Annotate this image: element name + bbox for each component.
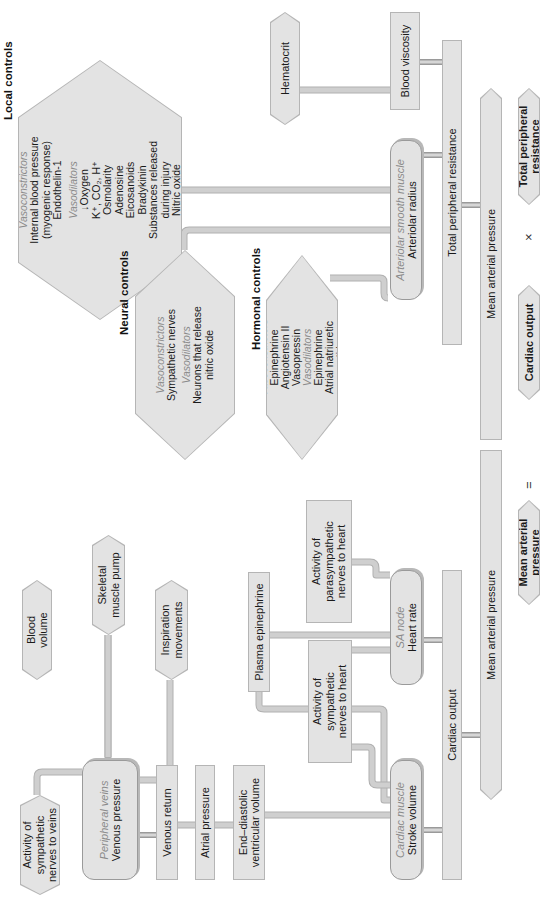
node-text: Mean arterial pressure	[485, 209, 498, 319]
list-item: Osmolarity	[102, 165, 114, 215]
node-text: Atrial pressure	[199, 787, 212, 858]
end-diastolic-volume-node: End–diastolic ventricular volume	[233, 765, 265, 880]
inspiration-movements-node: Inspiration movements	[155, 580, 188, 680]
node-text: volume	[37, 612, 50, 647]
sympathetic-heart-node: Activity of sympathetic nerves to heart	[308, 640, 352, 763]
venous-return-node: Venous return	[156, 765, 178, 880]
diagram-canvas: Activity of sympathetic nerves to veins …	[0, 0, 553, 905]
node-text: ventricular volume	[249, 778, 262, 867]
arteriolar-smooth-muscle-node: Arteriolar smooth muscle Arteriolar radi…	[390, 140, 422, 300]
node-text: nerves to heart	[335, 525, 348, 598]
blood-viscosity-node: Blood viscosity	[390, 12, 420, 110]
equation-term: Cardiac output	[523, 304, 536, 382]
node-text: Venous return	[161, 788, 174, 857]
node-label: SA node	[394, 607, 407, 649]
parasympathetic-heart-node: Activity of parasympathetic nerves to he…	[306, 500, 352, 623]
equals-sign: =	[521, 481, 536, 489]
blood-volume-node: Blood volume	[22, 580, 52, 680]
mean-arterial-pressure-bar-left: Mean arterial pressure	[480, 450, 502, 800]
node-text: Activity of	[310, 538, 323, 585]
equation-mean-arterial-pressure: Mean arterial pressure	[518, 500, 540, 605]
node-text: parasympathetic	[323, 521, 336, 602]
plasma-epinephrine-node: Plasma epinephrine	[248, 572, 270, 692]
list-item: Eicosanoids	[125, 162, 137, 219]
mean-arterial-pressure-bar-right: Mean arterial pressure	[480, 88, 502, 440]
sympathetic-veins-node: Activity of sympathetic nerves to veins	[20, 795, 60, 895]
node-label: Peripheral veins	[98, 781, 111, 860]
node-text: Activity of	[21, 821, 34, 868]
node-text: Skeletal	[96, 565, 109, 604]
node-text: Plasma epinephrine	[253, 583, 266, 680]
node-value: Stroke volume	[406, 785, 419, 855]
equation-term: Total peripheral resistance	[517, 89, 542, 204]
node-text: sympathetic	[324, 672, 337, 731]
node-text: Hematocrit	[279, 42, 292, 95]
atrial-pressure-node: Atrial pressure	[195, 765, 215, 880]
equation-cardiac-output: Cardiac output	[518, 285, 540, 400]
node-text: Inspiration	[159, 605, 172, 656]
node-text: Total peripheral resistance	[446, 128, 459, 256]
node-text: Mean arterial pressure	[485, 570, 498, 680]
equation-total-peripheral-resistance: Total peripheral resistance	[518, 88, 540, 205]
node-text: Activity of	[311, 678, 324, 725]
total-peripheral-resistance-bar: Total peripheral resistance	[442, 40, 462, 345]
node-value: Venous pressure	[110, 779, 123, 862]
list-item: Sympathetic nerves	[166, 309, 178, 401]
node-text: movements	[172, 602, 185, 659]
cardiac-output-bar: Cardiac output	[442, 570, 462, 880]
node-text: Blood viscosity	[399, 25, 412, 98]
neural-controls-title: Neural controls	[118, 251, 130, 335]
list-item: Endothelin-1	[52, 161, 64, 220]
sa-node-node: SA node Heart rate	[390, 570, 422, 685]
local-controls-title: Local controls	[2, 41, 14, 120]
cardiac-muscle-node: Cardiac muscle Stroke volume	[390, 760, 422, 880]
list-item: Substances released	[148, 141, 160, 239]
hormonal-controls-title: Hormonal controls	[250, 248, 262, 350]
node-value: Arteriolar radius	[406, 181, 419, 259]
node-text: Cardiac output	[446, 689, 459, 761]
node-label: Cardiac muscle	[394, 782, 407, 858]
list-item: ↓Oxygen	[79, 169, 91, 210]
node-text: sympathetic	[34, 816, 47, 875]
peripheral-veins-node: Peripheral veins Venous pressure	[82, 760, 138, 880]
hematocrit-node: Hematocrit	[270, 12, 300, 125]
equation-lhs: Mean arterial pressure	[517, 501, 542, 604]
node-text: nerves to heart	[336, 665, 349, 738]
list-item: Nitric oxide	[171, 164, 183, 216]
node-label: Arteriolar smooth muscle	[394, 159, 407, 281]
multiply-sign: ×	[521, 233, 536, 241]
node-text: muscle pump	[109, 552, 122, 617]
skeletal-muscle-pump-node: Skeletal muscle pump	[92, 535, 125, 635]
node-value: Heart rate	[406, 603, 419, 652]
node-text: Blood	[25, 616, 38, 644]
node-text: nerves to veins	[46, 808, 59, 882]
list-item: nitric oxide	[204, 330, 216, 380]
node-text: End–diastolic	[237, 790, 250, 855]
list-item: Internal blood pressure	[29, 136, 41, 243]
